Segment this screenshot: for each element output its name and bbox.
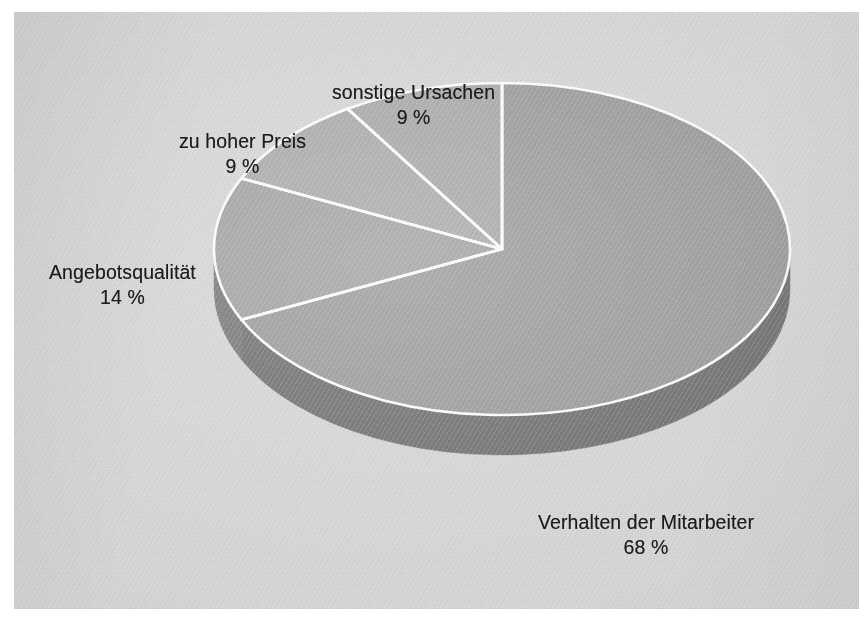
slice-label-verhalten-der-mitarbeiter: Verhalten der Mitarbeiter 68 % bbox=[538, 510, 754, 560]
slice-label-sonstige-ursachen: sonstige Ursachen 9 % bbox=[332, 80, 495, 130]
slice-label-percent: 9 % bbox=[332, 105, 495, 130]
figure-page: sonstige Ursachen 9 % zu hoher Preis 9 %… bbox=[0, 0, 867, 629]
slice-label-percent: 9 % bbox=[179, 154, 306, 179]
slice-label-percent: 68 % bbox=[538, 535, 754, 560]
slice-label-zu-hoher-preis: zu hoher Preis 9 % bbox=[179, 129, 306, 179]
slice-label-angebotsqualitaet: Angebotsqualität 14 % bbox=[49, 260, 196, 310]
slice-label-name: sonstige Ursachen bbox=[332, 81, 495, 103]
scanned-chart-panel: sonstige Ursachen 9 % zu hoher Preis 9 %… bbox=[14, 12, 859, 609]
slice-label-name: Angebotsqualität bbox=[49, 261, 196, 283]
slice-label-name: Verhalten der Mitarbeiter bbox=[538, 511, 754, 533]
slice-label-name: zu hoher Preis bbox=[179, 130, 306, 152]
slice-label-percent: 14 % bbox=[49, 285, 196, 310]
